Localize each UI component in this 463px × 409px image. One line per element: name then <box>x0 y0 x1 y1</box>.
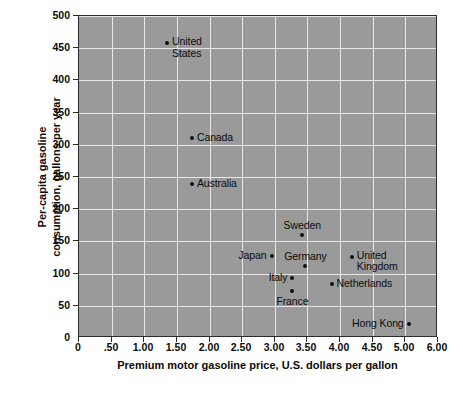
data-point-label: Netherlands <box>337 278 393 290</box>
gridline-horizontal <box>79 48 436 49</box>
scatter-chart-figure: UnitedStatesCanadaAustraliaSwedenJapanGe… <box>0 0 463 409</box>
gridline-vertical <box>275 16 276 336</box>
plot-area: UnitedStatesCanadaAustraliaSwedenJapanGe… <box>78 15 437 337</box>
x-axis-tick-label: 0 <box>75 341 81 353</box>
gridline-vertical <box>242 16 243 336</box>
data-point <box>407 322 411 326</box>
gridline-vertical <box>177 16 178 336</box>
gridline-horizontal <box>79 209 436 210</box>
data-point <box>270 254 274 258</box>
data-point-label-line1: United <box>357 250 398 262</box>
y-axis-tick <box>73 208 78 209</box>
data-point <box>190 136 194 140</box>
gridline-vertical <box>144 16 145 336</box>
data-point-label: Hong Kong <box>352 318 404 330</box>
data-point-label: UnitedKingdom <box>357 250 398 273</box>
x-axis-title: Premium motor gasoline price, U.S. dolla… <box>78 358 437 372</box>
gridline-horizontal <box>79 80 436 81</box>
data-point-label-line2: Kingdom <box>357 261 398 273</box>
data-point <box>190 182 194 186</box>
x-axis-tick-label: 3.00 <box>264 341 284 353</box>
data-point-label-line1: United <box>172 36 202 48</box>
x-axis-tick-label: 2.50 <box>231 341 251 353</box>
data-point <box>290 276 294 280</box>
y-axis-title: Per-capita gasoline consumption, gallons… <box>35 67 63 287</box>
data-point-label: UnitedStates <box>172 36 202 59</box>
x-axis-title-line2: U.S. dollars per gallon <box>282 359 398 371</box>
data-point <box>165 41 169 45</box>
y-axis-tick <box>73 47 78 48</box>
data-point <box>350 255 354 259</box>
gridline-vertical <box>112 16 113 336</box>
y-axis-tick <box>73 15 78 16</box>
gridline-vertical <box>307 16 308 336</box>
gridline-horizontal <box>79 306 436 307</box>
data-point-label: Australia <box>197 178 237 190</box>
y-axis-tick <box>73 240 78 241</box>
y-axis-title-line1: Per-capita gasoline <box>35 67 49 287</box>
y-axis-tick-label: 0 <box>64 331 70 343</box>
x-axis-title-line1: Premium motor gasoline price, <box>117 359 278 371</box>
x-axis-tick-label: 3.50 <box>296 341 316 353</box>
data-point-label: Canada <box>197 132 233 144</box>
x-axis-tick-label: 4.00 <box>329 341 349 353</box>
data-point-label: Japan <box>238 250 266 262</box>
y-axis-tick <box>73 79 78 80</box>
y-axis-tick <box>73 273 78 274</box>
x-axis-tick-label: .50 <box>104 341 119 353</box>
y-axis-tick <box>73 144 78 145</box>
data-point <box>300 233 304 237</box>
x-axis-tick-label: 2.00 <box>199 341 219 353</box>
gridline-horizontal <box>79 274 436 275</box>
data-point-label: France <box>276 296 308 308</box>
data-point <box>330 282 334 286</box>
x-axis-tick-label: 1.50 <box>166 341 186 353</box>
x-axis-tick-label: 1.00 <box>133 341 153 353</box>
data-point <box>290 289 294 293</box>
gridline-vertical <box>405 16 406 336</box>
data-point-label-line2: States <box>172 48 202 60</box>
gridline-horizontal <box>79 177 436 178</box>
gridline-horizontal <box>79 16 436 17</box>
gridline-horizontal <box>79 113 436 114</box>
y-axis-tick-label: 500 <box>52 9 70 21</box>
gridline-horizontal <box>79 241 436 242</box>
x-axis-tick-label: 4.50 <box>362 341 382 353</box>
x-axis-tick-label: 6.00 <box>427 341 447 353</box>
data-point-label: Italy <box>269 272 288 284</box>
y-axis-tick <box>73 176 78 177</box>
y-axis-tick <box>73 112 78 113</box>
x-axis-tick-label: 5.00 <box>394 341 414 353</box>
gridline-horizontal <box>79 145 436 146</box>
data-point-label: Sweden <box>284 219 321 231</box>
y-axis-tick-label: 450 <box>52 41 70 53</box>
y-axis-title-line2: consumption, gallons per year <box>49 67 63 287</box>
data-point-label: Germany <box>284 250 326 262</box>
y-axis-tick-label: 50 <box>58 299 70 311</box>
gridline-vertical <box>210 16 211 336</box>
y-axis-tick <box>73 305 78 306</box>
